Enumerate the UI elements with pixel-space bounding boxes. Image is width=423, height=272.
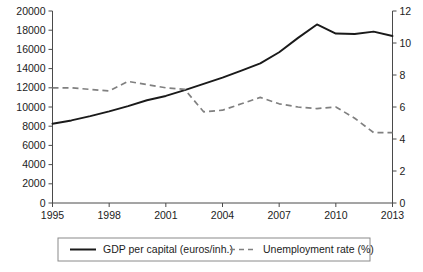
right-axis-tick-label: 4 <box>400 133 406 145</box>
series-line-gdp <box>53 24 393 123</box>
right-axis-tick-label: 0 <box>400 197 406 209</box>
right-axis-tick-label: 10 <box>400 37 412 49</box>
x-axis-tick-label: 2001 <box>154 209 178 221</box>
right-axis-tick-label: 6 <box>400 101 406 113</box>
left-axis-tick-label: 14000 <box>16 62 45 74</box>
x-axis-tick-label: 1998 <box>97 209 121 221</box>
left-axis-tick-label: 0 <box>40 197 46 209</box>
left-axis-tick-label: 10000 <box>16 101 45 113</box>
left-axis-tick-label: 2000 <box>22 177 46 189</box>
legend-label-gdp: GDP per capital (euros/inh.) <box>103 243 233 255</box>
x-axis-tick-label: 2007 <box>267 209 291 221</box>
left-axis-tick-label: 16000 <box>16 43 45 55</box>
x-axis: 1995199820012004200720102013 <box>41 203 405 221</box>
right-y-axis: 024681012 <box>393 5 412 209</box>
chart-figure: 0200040006000800010000120001400016000180… <box>0 0 423 272</box>
left-axis-tick-label: 8000 <box>22 120 46 132</box>
data-series-group <box>53 24 393 132</box>
x-axis-tick-label: 2013 <box>381 209 405 221</box>
left-axis-tick-label: 4000 <box>22 158 46 170</box>
right-axis-tick-label: 8 <box>400 69 406 81</box>
chart-legend: GDP per capital (euros/inh.)Unemployment… <box>58 238 374 261</box>
left-axis-tick-label: 20000 <box>16 5 45 17</box>
left-axis-tick-label: 12000 <box>16 81 45 93</box>
right-axis-tick-label: 12 <box>400 5 412 17</box>
left-axis-tick-label: 6000 <box>22 139 46 151</box>
left-y-axis: 0200040006000800010000120001400016000180… <box>16 5 52 209</box>
x-axis-tick-label: 2004 <box>211 209 235 221</box>
line-chart: 0200040006000800010000120001400016000180… <box>0 0 423 272</box>
right-axis-tick-label: 2 <box>400 165 406 177</box>
series-line-unemployment <box>53 81 393 132</box>
x-axis-tick-label: 2010 <box>324 209 348 221</box>
x-axis-tick-label: 1995 <box>41 209 65 221</box>
left-axis-tick-label: 18000 <box>16 24 45 36</box>
legend-label-unemployment: Unemployment rate (%) <box>263 243 374 255</box>
